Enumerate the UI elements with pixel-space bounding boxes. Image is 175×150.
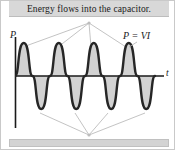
curve-equation-label: P = VI	[123, 30, 150, 41]
x-axis-label: t	[166, 68, 169, 78]
bottom-leader-lines	[40, 113, 145, 135]
physics-figure: Energy flows into the capacitor.	[0, 0, 175, 150]
bottom-leader-hub	[87, 133, 90, 136]
y-axis-label: P	[10, 29, 16, 40]
top-leader-lines	[23, 23, 126, 47]
bottom-banner	[9, 139, 169, 147]
power-waveform-plot	[1, 1, 175, 150]
top-leader-hub	[87, 21, 90, 24]
